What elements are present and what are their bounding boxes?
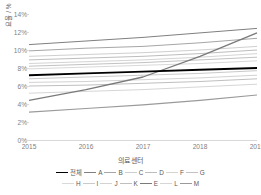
legend-swatch-icon bbox=[56, 172, 68, 173]
legend-label: M bbox=[194, 180, 199, 188]
legend-swatch-icon bbox=[160, 183, 172, 184]
legend-label: E bbox=[154, 180, 158, 188]
legend-item-G[interactable]: G bbox=[186, 167, 205, 178]
legend-item-A[interactable]: A bbox=[84, 167, 102, 178]
legend-item-I[interactable]: I bbox=[83, 178, 99, 189]
legend-item-L[interactable]: L bbox=[160, 178, 178, 189]
legend-swatch-icon bbox=[180, 183, 192, 184]
x-axis-line bbox=[29, 140, 257, 141]
legend-swatch-icon bbox=[125, 172, 137, 173]
legend-item-J[interactable]: J bbox=[100, 178, 117, 189]
legend-label: D bbox=[159, 169, 164, 177]
legend-label: L bbox=[174, 180, 178, 188]
legend-label: J bbox=[114, 180, 117, 188]
series-line-J bbox=[29, 75, 257, 82]
legend-swatch-icon bbox=[100, 183, 112, 184]
legend-item-B[interactable]: B bbox=[104, 167, 122, 178]
x-tick-label: 2015 bbox=[12, 143, 46, 150]
legend-item-K[interactable]: K bbox=[120, 178, 138, 189]
legend-item-전체[interactable]: 전체 bbox=[56, 167, 82, 178]
legend-swatch-icon bbox=[166, 172, 178, 173]
legend-label: F bbox=[180, 169, 184, 177]
legend-item-C[interactable]: C bbox=[125, 167, 144, 178]
legend-label: C bbox=[139, 169, 144, 177]
y-tick-label: 10% bbox=[3, 47, 27, 54]
y-axis-tick-labels: 0%2%4%6%8%10%12%14% bbox=[0, 0, 27, 195]
legend-label: A bbox=[98, 169, 102, 177]
legend-item-D[interactable]: D bbox=[145, 167, 164, 178]
legend-swatch-icon bbox=[120, 183, 132, 184]
y-tick-label: 2% bbox=[3, 119, 27, 126]
y-tick-label: 12% bbox=[3, 29, 27, 36]
y-tick-label: 6% bbox=[3, 83, 27, 90]
legend-row: HIJKELM bbox=[0, 178, 261, 189]
legend-swatch-icon bbox=[186, 172, 198, 173]
legend-row: 전체ABCDFG bbox=[0, 167, 261, 178]
x-tick-label: 2018 bbox=[183, 143, 217, 150]
plot-area bbox=[29, 14, 257, 140]
y-tick-label: 4% bbox=[3, 101, 27, 108]
legend-item-H[interactable]: H bbox=[62, 178, 81, 189]
legend-label: H bbox=[76, 180, 81, 188]
x-tick-label: 2019 bbox=[240, 143, 261, 150]
x-tick-label: 2017 bbox=[126, 143, 160, 150]
legend-swatch-icon bbox=[104, 172, 116, 173]
legend-label: B bbox=[118, 169, 122, 177]
series-line-E bbox=[29, 33, 257, 101]
legend-swatch-icon bbox=[83, 183, 95, 184]
y-tick-label: 8% bbox=[3, 65, 27, 72]
legend-swatch-icon bbox=[145, 172, 157, 173]
series-line-전체 bbox=[29, 68, 257, 75]
legend-swatch-icon bbox=[140, 183, 152, 184]
x-tick-label: 2016 bbox=[69, 143, 103, 150]
legend-label: I bbox=[97, 180, 99, 188]
series-line-C bbox=[29, 46, 257, 56]
legend-item-M[interactable]: M bbox=[180, 178, 199, 189]
chart-container: 요율 / % 0%2%4%6%8%10%12%14% 2015201620172… bbox=[0, 0, 261, 195]
legend-swatch-icon bbox=[84, 172, 96, 173]
legend-label: 전체 bbox=[70, 169, 82, 177]
legend-item-F[interactable]: F bbox=[166, 167, 184, 178]
chart-legend: 전체ABCDFGHIJKELM bbox=[0, 167, 261, 189]
legend-label: K bbox=[134, 180, 138, 188]
legend-item-E[interactable]: E bbox=[140, 178, 158, 189]
series-line-A bbox=[29, 28, 257, 44]
x-axis-title: 의료 센터 bbox=[0, 155, 261, 165]
legend-swatch-icon bbox=[62, 183, 74, 184]
series-line-M bbox=[29, 95, 257, 112]
legend-label: G bbox=[200, 169, 205, 177]
y-tick-label: 14% bbox=[3, 11, 27, 18]
series-lines bbox=[29, 14, 257, 140]
